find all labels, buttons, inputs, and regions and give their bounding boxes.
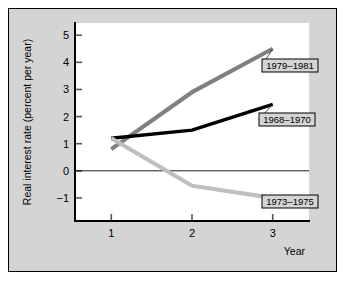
x-tick-label: 1 bbox=[108, 227, 114, 239]
y-tick-label: 5 bbox=[63, 29, 69, 41]
x-tick-label: 3 bbox=[270, 227, 276, 239]
callout-label: 1979–1981 bbox=[266, 60, 314, 71]
y-axis-title: Real interest rate (percent per year) bbox=[21, 39, 33, 205]
callout-label: 1973–1975 bbox=[266, 196, 314, 207]
real-interest-rate-line-chart: 543210−1 123 1979–19811968–19701973–1975… bbox=[9, 9, 336, 271]
y-tick-label: 0 bbox=[63, 165, 69, 177]
y-tick-label: −1 bbox=[56, 192, 69, 204]
callout-label: 1968–1970 bbox=[263, 114, 311, 125]
y-tick-label: 4 bbox=[63, 56, 69, 68]
x-tick-label: 2 bbox=[189, 227, 195, 239]
x-axis-title: Year bbox=[284, 245, 306, 257]
chart-figure: 543210−1 123 1979–19811968–19701973–1975… bbox=[8, 8, 337, 272]
y-tick-label: 1 bbox=[63, 138, 69, 150]
y-tick-label: 2 bbox=[63, 111, 69, 123]
y-tick-label: 3 bbox=[63, 83, 69, 95]
